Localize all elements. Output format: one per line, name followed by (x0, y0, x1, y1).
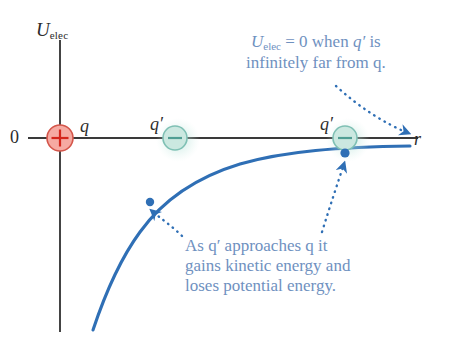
test-charge-near-label: q′ (150, 115, 163, 133)
annotation-energy-line-3: loses potential energy. (185, 276, 350, 296)
source-charge-symbol (47, 125, 73, 151)
annotation-is-word: is (365, 32, 381, 51)
curve-point-near (146, 198, 154, 206)
y-axis-label: Uelec (36, 20, 68, 41)
annotation-q-prime: q′ (353, 32, 365, 51)
annotation-u-subscript: elec (263, 40, 281, 52)
annotation-energy-exchange: As q′ approaches q it gains kinetic ener… (185, 236, 350, 296)
origin-label: 0 (10, 128, 19, 146)
annotation-zero-at-infinity: Uelec = 0 when q′ is infinitely far from… (246, 32, 386, 73)
y-axis-label-main: U (36, 19, 50, 40)
annotation-energy-line-1: As q′ approaches q it (185, 236, 350, 256)
curve-point-far (340, 148, 349, 157)
y-axis-label-subscript: elec (50, 29, 69, 41)
pointer-to-curve-point-near (152, 211, 182, 236)
pointer-to-curve-point-far (322, 164, 344, 232)
test-charge-far-label: q′ (320, 115, 333, 133)
electric-potential-energy-diagram: Uelec 0 q q′ q′ r Uelec = 0 when q′ is i… (0, 0, 455, 341)
annotation-equals-zero: = 0 when (281, 32, 353, 51)
x-axis-label: r (414, 130, 421, 148)
test-charge-far-symbol (333, 126, 357, 150)
annotation-u-symbol: U (251, 32, 263, 51)
annotation-zero-line-2: infinitely far from q. (246, 53, 386, 73)
test-charge-near-symbol (163, 126, 187, 150)
annotation-energy-line-2: gains kinetic energy and (185, 256, 350, 276)
annotation-zero-line-1: Uelec = 0 when q′ is (246, 32, 386, 53)
source-charge-label: q (80, 117, 89, 135)
